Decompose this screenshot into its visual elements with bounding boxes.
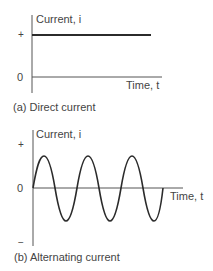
ac-y-axis-label: Current, i (36, 128, 81, 140)
dc-diagram: Current, i + 0 Time, t (a) Direct curren… (13, 13, 162, 113)
current-waveforms-diagram: Current, i + 0 Time, t (a) Direct curren… (0, 0, 213, 271)
ac-plus-tick: + (18, 139, 24, 150)
ac-minus-tick: − (18, 237, 24, 248)
dc-plus-tick: + (18, 29, 24, 40)
dc-caption: (a) Direct current (13, 101, 96, 113)
dc-x-axis-label: Time, t (126, 79, 159, 91)
ac-x-axis-label: Time, t (170, 190, 203, 202)
dc-y-axis-label: Current, i (36, 13, 81, 25)
ac-diagram: Current, i + 0 − Time, t (b) Alternating… (14, 128, 203, 263)
ac-zero-tick: 0 (17, 182, 23, 194)
dc-zero-tick: 0 (17, 71, 23, 83)
ac-caption: (b) Alternating current (14, 251, 120, 263)
